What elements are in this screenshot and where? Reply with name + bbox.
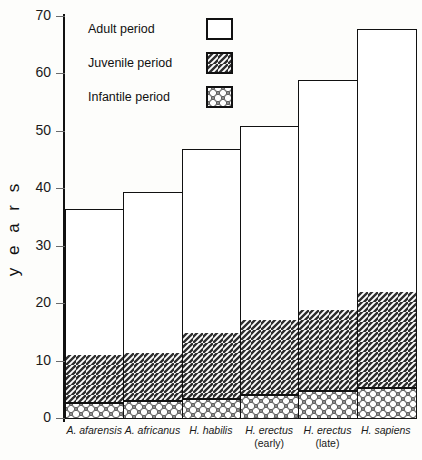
bar-segment-adult <box>66 210 124 355</box>
y-tick-mark <box>56 131 65 132</box>
y-tick-label: 0 <box>43 409 51 425</box>
dots-swatch <box>206 86 233 108</box>
y-tick-mark <box>56 246 65 247</box>
bar-segment-adult <box>241 127 299 320</box>
x-axis-label: A. afarensis <box>65 424 123 450</box>
y-tick-mark <box>56 361 65 362</box>
stacked-bar-chart: y e a r s 010203040506070 A. afarensisA.… <box>0 0 422 460</box>
x-axis-label: H. erectus(early) <box>240 424 298 450</box>
legend-item[interactable]: Juvenile period <box>88 52 233 74</box>
x-axis-label-main: H. erectus <box>245 424 293 436</box>
legend-item[interactable]: Infantile period <box>88 86 233 108</box>
bar-h-habilis[interactable] <box>182 149 242 419</box>
bar-segment-juvenile <box>358 292 416 388</box>
x-axis-label-main: H. erectus <box>304 424 352 436</box>
bar-segment-infantile <box>66 403 124 418</box>
bar-segment-juvenile <box>241 320 299 395</box>
x-axis-label: H. habilis <box>182 424 240 450</box>
x-axis-label-main: A. africanus <box>125 424 180 436</box>
y-tick-label: 10 <box>35 352 51 368</box>
bar-segment-infantile <box>358 388 416 418</box>
bar-a-afarensis[interactable] <box>65 209 125 419</box>
y-axis-label: y e a r s <box>4 180 24 276</box>
bar-segment-adult <box>299 81 357 309</box>
y-tick-label: 40 <box>35 179 51 195</box>
x-axis-label: H. sapiens <box>357 424 415 450</box>
chart-legend: Adult periodJuvenile periodInfantile per… <box>88 18 233 108</box>
x-axis-label: H. erectus(late) <box>298 424 356 450</box>
bar-h-sapiens[interactable] <box>357 29 417 420</box>
bar-segment-infantile <box>241 395 299 418</box>
y-tick-label: 30 <box>35 237 51 253</box>
bar-segment-juvenile <box>183 333 241 400</box>
bar-segment-juvenile <box>124 353 182 401</box>
bar-segment-juvenile <box>299 310 357 392</box>
x-axis-label-main: A. afarensis <box>66 424 121 436</box>
bar-segment-juvenile <box>66 355 124 403</box>
x-axis-label: A. africanus <box>123 424 181 450</box>
y-tick-mark <box>56 16 65 17</box>
bar-h-erectus-early[interactable] <box>240 126 300 419</box>
x-axis-labels: A. afarensisA. africanusH. habilisH. ere… <box>65 424 415 450</box>
x-axis-label-sub: (early) <box>240 437 298 450</box>
legend-item-label: Infantile period <box>88 90 192 104</box>
y-tick-label: 20 <box>35 294 51 310</box>
y-tick-label: 60 <box>35 64 51 80</box>
y-tick-label: 70 <box>35 7 51 23</box>
y-tick-mark <box>56 188 65 189</box>
x-axis-label-main: H. habilis <box>189 424 232 436</box>
hatch-swatch <box>206 52 233 74</box>
y-tick-mark <box>56 303 65 304</box>
bar-segment-infantile <box>299 391 357 418</box>
bar-segment-adult <box>124 193 182 352</box>
x-axis-label-main: H. sapiens <box>361 424 411 436</box>
bar-segment-infantile <box>183 399 241 418</box>
legend-item-label: Juvenile period <box>88 56 192 70</box>
y-tick-label: 50 <box>35 122 51 138</box>
legend-item[interactable]: Adult period <box>88 18 233 40</box>
y-tick-mark <box>56 73 65 74</box>
blank-swatch <box>206 18 233 40</box>
bar-h-erectus-late[interactable] <box>298 80 358 419</box>
bar-a-africanus[interactable] <box>123 192 183 419</box>
bar-segment-adult <box>183 150 241 332</box>
bar-segment-infantile <box>124 401 182 418</box>
x-axis-label-sub: (late) <box>298 437 356 450</box>
y-tick-mark <box>56 418 65 419</box>
bar-segment-adult <box>358 30 416 293</box>
legend-item-label: Adult period <box>88 22 192 36</box>
